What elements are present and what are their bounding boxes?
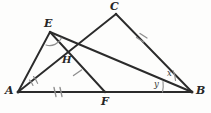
tick-mark-segment-ef — [74, 70, 82, 76]
vertex-label-f: F — [101, 96, 109, 107]
angle-arc-b-x — [173, 71, 176, 81]
vertex-dot-c — [115, 13, 117, 15]
vertex-dot-f — [104, 91, 106, 93]
vertex-label-a: A — [5, 85, 14, 96]
vertex-label-b: B — [196, 85, 205, 96]
tick-marks-segment-cb-2 — [140, 34, 147, 39]
vertex-label-c: C — [110, 1, 119, 12]
angle-arc-b-y — [163, 82, 164, 93]
angle-arc-at-e — [46, 38, 62, 46]
cevian-ef — [50, 32, 105, 92]
segment-ae — [18, 32, 50, 92]
geometry-figure: A B C E F H x y — [0, 0, 211, 113]
vertex-label-h: H — [62, 55, 71, 65]
angle-label-x: x — [167, 69, 172, 78]
vertex-label-e: E — [44, 18, 52, 29]
vertex-dot-e — [49, 31, 51, 33]
vertex-dot-b — [191, 91, 194, 94]
angle-label-y: y — [154, 80, 159, 89]
vertex-dot-a — [17, 91, 20, 94]
